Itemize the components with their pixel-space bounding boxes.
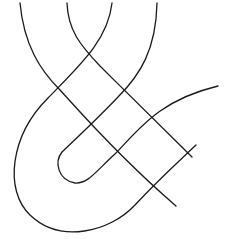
curve-a: [20, 3, 176, 206]
knot-drawing: [0, 0, 227, 239]
curve-d: [58, 3, 218, 183]
curve-b: [67, 3, 192, 157]
knot-figure: [0, 0, 227, 239]
curve-c: [14, 3, 196, 232]
